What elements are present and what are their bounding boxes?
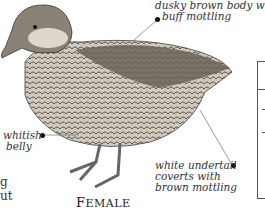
label-line: brown mottling [155,182,237,193]
fragment-line: g [0,175,13,189]
bullet [262,132,265,133]
bullet [262,109,265,110]
caption-female: FEMALE [76,195,131,210]
label-body: dusky brown body with buff mottling [155,0,265,22]
caption-rest: EMALE [86,197,131,210]
left-text-fragment: g ut [0,175,13,203]
label-line: buff mottling [155,11,265,22]
fragment-line: ut [0,189,13,203]
label-undertail: white undertail coverts with brown mottl… [155,160,237,193]
caption-initial: F [76,195,86,210]
label-line: belly [3,141,42,152]
side-panel-frame [257,61,265,199]
divider [258,89,265,90]
label-belly: whitish belly [3,130,42,152]
